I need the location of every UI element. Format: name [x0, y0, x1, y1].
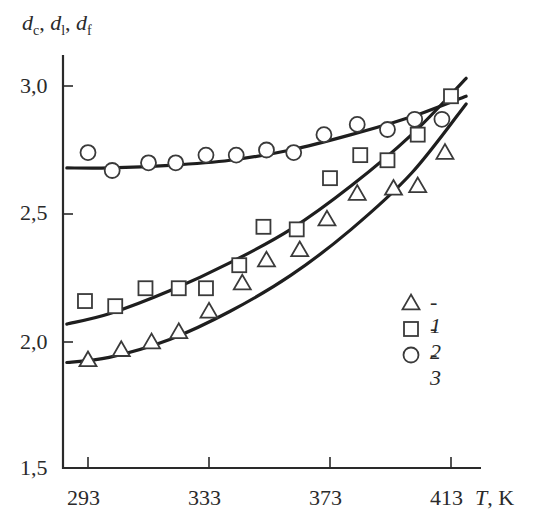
triangle-marker-icon	[170, 323, 187, 338]
circle-marker-icon	[168, 155, 183, 170]
square-marker-icon	[353, 148, 367, 162]
y-tick-label-2-5: 2,5	[20, 200, 48, 226]
circle-marker-icon	[380, 122, 395, 137]
y-label-d-l: d	[50, 10, 61, 35]
x-tick-label-333: 333	[188, 485, 221, 511]
y-tick-label-1-5: 1,5	[20, 455, 48, 481]
y-label-d-f: d	[76, 10, 87, 35]
x-tick-label-413: 413	[430, 485, 463, 511]
x-tick-label-373: 373	[309, 485, 342, 511]
square-marker-icon	[411, 128, 425, 142]
triangle-marker-icon	[258, 252, 275, 267]
y-ticks	[63, 86, 73, 342]
square-marker-icon	[380, 153, 394, 167]
triangle-marker-icon	[291, 241, 308, 256]
circle-marker-icon	[141, 155, 156, 170]
triangle-marker-icon	[409, 177, 426, 192]
square-marker-icon	[138, 281, 152, 295]
x-axis-label: T, K	[475, 485, 514, 511]
triangle-marker-icon	[318, 211, 335, 226]
legend-label-3: - 3	[430, 342, 441, 390]
data-markers	[78, 89, 458, 366]
y-label-sub-f: f	[87, 23, 92, 38]
square-marker-icon	[108, 299, 122, 313]
circle-marker-icon	[316, 127, 331, 142]
triangle-marker-icon	[201, 303, 218, 318]
fit-curve-series-2	[67, 78, 466, 324]
circle-marker-icon	[434, 112, 449, 127]
triangle-marker-icon	[436, 144, 453, 159]
legend-circle-icon	[404, 348, 419, 363]
x-tick-label-293: 293	[67, 485, 100, 511]
legend-triangle-icon	[403, 295, 420, 310]
square-marker-icon	[444, 89, 458, 103]
triangle-marker-icon	[143, 334, 160, 349]
circle-marker-icon	[259, 143, 274, 158]
circle-marker-icon	[407, 112, 422, 127]
y-tick-label-2-0: 2,0	[20, 329, 48, 355]
x-ticks	[88, 457, 451, 468]
circle-marker-icon	[198, 148, 213, 163]
triangle-marker-icon	[234, 275, 251, 290]
chart-canvas	[0, 0, 539, 523]
square-marker-icon	[78, 294, 92, 308]
circle-marker-icon	[81, 145, 96, 160]
square-marker-icon	[199, 281, 213, 295]
y-label-d-c: d	[22, 10, 33, 35]
triangle-marker-icon	[113, 341, 130, 356]
legend-markers	[403, 295, 420, 363]
circle-marker-icon	[286, 145, 301, 160]
square-marker-icon	[256, 220, 270, 234]
x-label-unit: , K	[487, 485, 514, 510]
square-marker-icon	[232, 258, 246, 272]
legend-square-icon	[404, 322, 418, 336]
circle-marker-icon	[229, 148, 244, 163]
y-tick-label-3-0: 3,0	[20, 73, 48, 99]
circle-marker-icon	[350, 117, 365, 132]
square-marker-icon	[290, 222, 304, 236]
square-marker-icon	[323, 171, 337, 185]
circle-marker-icon	[105, 163, 120, 178]
y-axis-label: dc, dl, df	[22, 10, 92, 39]
x-label-symbol: T	[475, 485, 487, 510]
square-marker-icon	[172, 281, 186, 295]
